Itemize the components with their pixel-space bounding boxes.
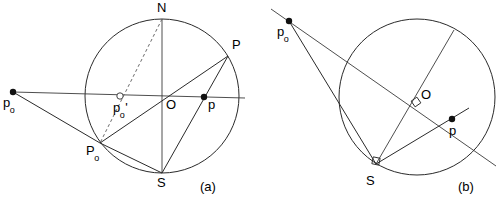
panel-a-label-S: S: [157, 176, 166, 189]
panel-a-point-p0-dot: [10, 89, 16, 95]
panel-a-label-P: P: [232, 38, 241, 51]
panel-a-label-N: N: [157, 1, 166, 14]
panel-a-label-p: p: [208, 98, 215, 111]
panel-a-point-p-dot: [201, 94, 207, 100]
panel-a-group: [10, 19, 245, 173]
panel-b-label-O: O: [421, 88, 431, 101]
panel-b-tag: (b): [458, 180, 474, 193]
panel-b-label-p0: po: [277, 25, 289, 42]
panel-a-label-P0: Po: [86, 144, 100, 161]
panel-a-dashed-N-P0: [100, 19, 162, 143]
panel-a-label-O: O: [166, 98, 176, 111]
figure-container: N S O P Po p po po' (a) O S p po (b): [0, 0, 503, 201]
panel-b-secant-through-O: [271, 9, 496, 166]
panel-a-label-p0-prime-sub: o: [120, 110, 125, 120]
panel-b-point-p-dot: [449, 116, 455, 122]
panel-b-diameter-S-to-rim: [376, 30, 454, 164]
panel-a-tag: (a): [200, 180, 216, 193]
panel-b-group: [271, 9, 496, 175]
panel-a-label-p0-sub: o: [10, 105, 15, 115]
panel-a-chord-p0-P0: [13, 92, 100, 143]
panel-b-label-p: p: [449, 124, 456, 137]
panel-a-label-p0-prime-mark: ': [125, 100, 127, 115]
panel-a-label-p0-prime: po': [113, 101, 128, 118]
panel-a-chord-P0-S: [100, 143, 162, 173]
panel-a-label-p0: po: [3, 96, 15, 113]
panel-a-point-p0-prime-opendot: [117, 93, 123, 99]
panel-b-label-S: S: [366, 174, 375, 187]
panel-b-label-p0-sub: o: [284, 34, 289, 44]
panel-a-label-P0-sub: o: [94, 153, 99, 163]
panel-b-point-p0-dot: [286, 18, 292, 24]
panel-a-chord-P-S: [162, 56, 228, 173]
panel-b-chord-p0-S: [289, 21, 376, 164]
